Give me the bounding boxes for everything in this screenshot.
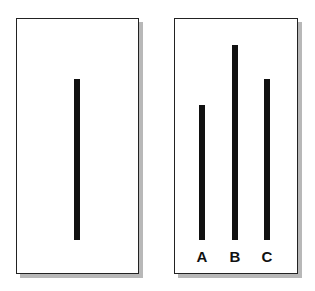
label-c: C [257,248,277,265]
label-a: A [192,248,212,265]
label-b: B [225,248,245,265]
reference-line [74,79,80,240]
line-b [232,45,238,240]
line-c [264,79,270,240]
line-a [199,105,205,240]
